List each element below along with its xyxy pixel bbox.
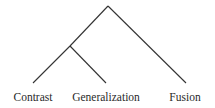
tree-diagram: Contrast Generalization Fusion <box>0 0 215 108</box>
leaf-label-contrast: Contrast <box>14 91 54 103</box>
edge-internal-to-contrast <box>33 46 70 83</box>
edge-root-to-fusion <box>108 6 186 83</box>
edge-root-to-internal <box>70 6 108 46</box>
leaf-label-fusion: Fusion <box>169 91 201 103</box>
leaf-label-generalization: Generalization <box>72 91 140 103</box>
edge-internal-to-generalization <box>70 46 106 83</box>
tree-svg: Contrast Generalization Fusion <box>0 0 215 108</box>
